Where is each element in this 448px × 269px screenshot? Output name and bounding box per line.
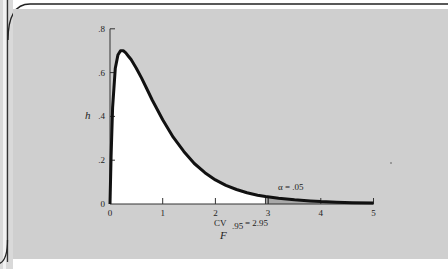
x-tick-label: 2: [213, 208, 218, 218]
speck: [390, 162, 392, 164]
chart-panel: [13, 9, 448, 259]
y-tick-label: .2: [98, 155, 105, 165]
cv-label-prefix: CV: [214, 218, 227, 228]
figure: 0.2.4.6.8012345hFα = .05CV.95= 2.95: [0, 0, 448, 269]
cv-label-value: = 2.95: [245, 218, 269, 228]
alpha-label: α = .05: [278, 182, 304, 192]
y-axis-title: h: [85, 109, 91, 121]
x-tick-label: 4: [319, 208, 324, 218]
y-tick-label: .8: [98, 24, 105, 34]
x-tick-label: 3: [266, 208, 271, 218]
y-tick-label: .4: [98, 111, 105, 121]
y-tick-label: .6: [98, 68, 105, 78]
left-strip-highlight: [3, 0, 6, 269]
x-tick-label: 0: [108, 208, 113, 218]
left-strip: [0, 0, 13, 269]
y-tick-label: 0: [101, 199, 106, 209]
x-tick-label: 5: [371, 208, 376, 218]
x-tick-label: 1: [160, 208, 165, 218]
cv-label-subscript: .95: [232, 221, 244, 231]
x-axis-title: F: [219, 229, 227, 241]
